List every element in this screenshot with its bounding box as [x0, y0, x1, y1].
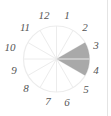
hour-label-4: 4	[93, 64, 99, 76]
hour-label-8: 8	[23, 82, 29, 94]
hour-label-3: 3	[92, 39, 99, 51]
clock-sector-diagram: 121234567891011	[0, 0, 111, 116]
hour-label-12: 12	[39, 9, 51, 21]
hour-label-2: 2	[82, 21, 88, 33]
hour-label-11: 11	[20, 21, 30, 33]
hour-label-6: 6	[64, 96, 70, 108]
hour-label-10: 10	[5, 41, 17, 53]
hour-label-9: 9	[11, 64, 17, 76]
hour-label-5: 5	[83, 83, 89, 95]
right-border-line	[107, 0, 108, 116]
hour-label-7: 7	[45, 95, 51, 107]
hour-label-1: 1	[64, 9, 70, 21]
